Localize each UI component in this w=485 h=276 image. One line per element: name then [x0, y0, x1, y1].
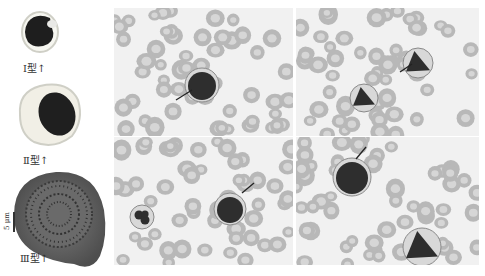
red-blood-cell [282, 226, 293, 237]
red-blood-cell [436, 203, 452, 216]
red-blood-cell [116, 31, 131, 47]
red-blood-cell [441, 24, 456, 38]
red-blood-cell [278, 63, 293, 80]
red-blood-cell [457, 173, 472, 188]
red-blood-cell [372, 249, 386, 262]
red-blood-cell [243, 229, 260, 246]
red-blood-cell [296, 201, 309, 214]
red-blood-cell [365, 234, 384, 251]
red-blood-cell [325, 70, 340, 82]
red-blood-cell [269, 108, 282, 119]
cell-type-legend: Ⅰ型↑ Ⅱ型↑ Ⅲ型↑ 5 μm [0, 0, 112, 276]
red-blood-cell [385, 106, 404, 122]
red-blood-cell [263, 29, 282, 47]
red-blood-cell [215, 122, 228, 135]
red-blood-cell [117, 120, 134, 136]
type-1-cell-illustration [22, 12, 58, 52]
micrograph-bottom-left [114, 137, 293, 265]
red-blood-cell [223, 104, 237, 118]
red-blood-cell [332, 137, 352, 151]
red-blood-cell [164, 103, 181, 120]
red-blood-cell [114, 139, 131, 160]
red-blood-cell [214, 29, 232, 45]
red-blood-cell [197, 244, 212, 257]
red-blood-cell [156, 179, 174, 195]
lymphoid-cell [403, 228, 441, 265]
type-2-cell-illustration [20, 85, 82, 145]
lymphoid-cell [130, 205, 154, 229]
red-blood-cell [298, 47, 314, 64]
red-blood-cell [324, 191, 337, 201]
red-blood-cell [234, 26, 251, 44]
red-blood-cell [148, 10, 160, 20]
red-blood-cell [465, 68, 477, 79]
red-blood-cell [137, 237, 153, 251]
red-blood-cell [378, 55, 397, 74]
red-blood-cell [160, 26, 173, 37]
red-blood-cell [227, 153, 243, 170]
scale-bar-label: 5 μm [3, 212, 11, 230]
red-blood-cell [428, 166, 442, 181]
red-blood-cell [304, 116, 317, 126]
red-blood-cell [148, 228, 162, 240]
red-blood-cell [164, 140, 177, 153]
red-blood-cell [442, 164, 458, 182]
red-blood-cell [128, 176, 144, 191]
red-blood-cell [173, 240, 192, 259]
red-blood-cell [465, 204, 479, 222]
red-blood-cell [171, 213, 187, 227]
red-blood-cell [266, 178, 283, 193]
red-blood-cell [237, 253, 254, 265]
red-blood-cell [313, 30, 329, 43]
red-blood-cell [370, 123, 389, 136]
red-blood-cell [457, 109, 475, 127]
red-blood-cell [343, 116, 360, 131]
red-blood-cell [387, 126, 404, 136]
red-blood-cell [270, 118, 284, 133]
red-blood-cell [190, 142, 207, 158]
red-blood-cell [244, 210, 263, 227]
red-blood-cell [296, 19, 309, 37]
scale-bar [13, 212, 15, 232]
red-blood-cell [396, 215, 413, 230]
lymphoid-cell [350, 84, 378, 112]
red-blood-cell [243, 87, 260, 103]
type-3-label: Ⅲ型↑ [20, 250, 48, 265]
red-blood-cell [136, 53, 156, 69]
micrograph-top-right [296, 8, 479, 136]
red-blood-cell [206, 9, 225, 27]
red-blood-cell [245, 115, 260, 129]
red-blood-cell [227, 14, 240, 27]
red-blood-cell [296, 255, 313, 265]
red-blood-cell [183, 167, 200, 184]
red-blood-cell [155, 59, 167, 71]
red-blood-cell [223, 247, 237, 259]
red-blood-cell [250, 45, 265, 60]
red-blood-cell [463, 42, 479, 57]
red-blood-cell [282, 139, 293, 158]
red-blood-cell [469, 239, 479, 255]
lymphoid-cell [333, 158, 371, 196]
red-blood-cell [279, 159, 293, 174]
red-blood-cell [469, 185, 479, 201]
red-blood-cell [407, 200, 421, 212]
red-blood-cell [408, 20, 425, 35]
micrograph-bottom-right [296, 137, 479, 265]
red-blood-cell [434, 217, 448, 229]
red-blood-cell [299, 222, 315, 239]
red-blood-cell [268, 236, 286, 252]
type-1-label: Ⅰ型↑ [23, 60, 45, 75]
red-blood-cell [233, 174, 246, 187]
red-blood-cell [321, 8, 334, 18]
red-blood-cell [252, 198, 266, 212]
red-blood-cell [185, 198, 202, 215]
red-blood-cell [319, 127, 335, 136]
red-blood-cell [229, 231, 244, 245]
red-blood-cell [410, 112, 424, 127]
red-blood-cell [114, 98, 132, 116]
red-blood-cell [194, 28, 212, 46]
red-blood-cell [378, 88, 396, 108]
red-blood-cell [323, 202, 339, 220]
red-blood-cell [335, 31, 353, 46]
red-blood-cell [323, 85, 337, 99]
